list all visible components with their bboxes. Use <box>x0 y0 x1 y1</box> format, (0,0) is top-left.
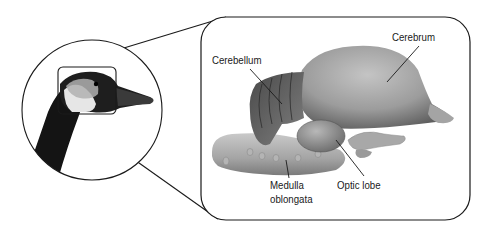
label-optic-lobe: Optic lobe <box>337 178 381 192</box>
label-medulla-line2: oblongata <box>270 192 313 206</box>
label-medulla-oblongata: Medulla oblongata <box>270 178 313 206</box>
label-cerebellum: Cerebellum <box>212 53 262 67</box>
label-medulla-line1: Medulla <box>270 178 313 192</box>
bird-brain-diagram: Cerebrum Cerebellum Medulla oblongata Op… <box>0 0 480 232</box>
label-cerebrum: Cerebrum <box>392 30 435 44</box>
goose-head-inset <box>22 40 162 190</box>
